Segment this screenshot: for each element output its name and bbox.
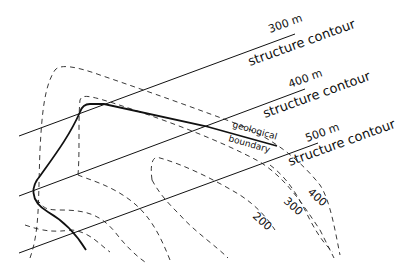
topo-contour-300 — [78, 175, 170, 260]
structure-contour-500 — [19, 143, 318, 253]
contour-300-value: 300 m — [267, 12, 305, 36]
topo-contour-inner — [152, 180, 228, 258]
contour-500-label: structure contour — [286, 116, 398, 169]
topo-label-200: 200 — [250, 210, 274, 234]
topo-label-300: 300 — [281, 195, 305, 219]
topo-contour-low — [25, 225, 110, 252]
structure-contour-300 — [19, 34, 295, 136]
topo-label-400: 400 — [305, 186, 329, 210]
geological-map-diagram: 300 m structure contour 400 m structure … — [0, 0, 404, 268]
